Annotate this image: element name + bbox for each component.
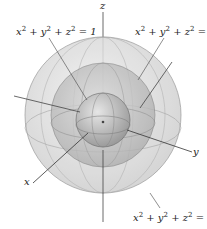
sphere-2-label: x2 + y2 + z2 = 4 (135, 25, 207, 37)
z-axis-label: z (100, 0, 105, 11)
y-axis-label: y (193, 146, 199, 157)
sphere-3-label: x2 + y2 + z2 = 9 (133, 211, 207, 223)
sphere-radius-1 (76, 93, 130, 147)
leader-sphere-3 (150, 193, 160, 208)
x-axis-label: x (24, 176, 30, 187)
sphere-1-label: x2 + y2 + z2 = 1 (16, 25, 97, 37)
origin-point (102, 121, 105, 124)
